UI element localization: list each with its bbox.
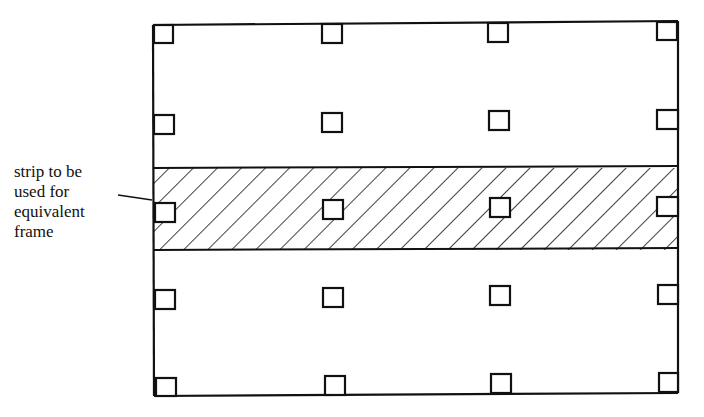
annotation-line-3: equivalent [14,202,85,222]
annotation-line-2: used for [14,182,85,202]
column-square [488,23,508,42]
column-square [155,203,175,222]
column-square [154,25,173,43]
annotation-line-1: strip to be [14,162,85,182]
column-square [658,285,678,304]
column-square [325,376,345,395]
annotation-line-4: frame [14,222,85,242]
column-square [657,197,678,216]
column-square [490,198,510,217]
column-square [490,286,510,305]
column-square [657,110,678,129]
column-square [155,290,175,309]
column-square [154,115,174,134]
column-square [322,113,342,132]
column-square [491,374,511,393]
column-square [322,24,342,43]
strip-annotation-label: strip to be used for equivalent frame [14,162,85,242]
column-square [156,378,176,396]
column-square [323,200,343,219]
annotation-leader-line [118,195,152,200]
column-square [489,111,509,130]
column-square [323,288,343,307]
slab-plan-diagram [0,0,704,417]
column-square [659,373,678,392]
column-square [657,22,677,40]
hatched-equivalent-frame-strip [153,166,678,250]
